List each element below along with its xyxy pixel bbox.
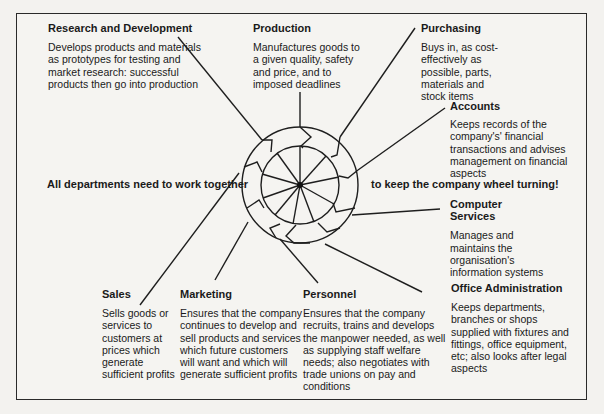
dept-accounts: Accounts Keeps records of the company's'…	[450, 100, 575, 179]
dept-title: Research and Development	[48, 22, 208, 34]
dept-title: Computer Services	[450, 198, 550, 222]
dept-description: Sells goods or services to customers at …	[102, 307, 180, 380]
dept-title: Sales	[102, 288, 180, 300]
dept-title: Accounts	[450, 100, 575, 112]
dept-computer-services: Computer Services Manages and maintains …	[450, 198, 550, 278]
dept-description: Keeps departments, branches or shops sup…	[451, 301, 576, 374]
dept-purchasing: Purchasing Buys in, as cost-effectively …	[421, 22, 503, 102]
slogan-left: All departments need to work together	[47, 178, 248, 190]
dept-description: Buys in, as cost-effectively as possible…	[421, 41, 503, 102]
dept-description: Keeps records of the company's' financia…	[450, 118, 575, 179]
dept-research-and-development: Research and Development Develops produc…	[48, 22, 208, 90]
dept-description: Ensures that the company continues to de…	[180, 307, 305, 380]
dept-description: Develops products and materials as proto…	[48, 41, 208, 90]
dept-title: Production	[253, 22, 368, 34]
dept-sales: Sales Sells goods or services to custome…	[102, 288, 180, 380]
slogan-right: to keep the company wheel turning!	[371, 178, 559, 190]
dept-title: Marketing	[180, 288, 305, 300]
dept-description: Ensures that the company recruits, train…	[303, 307, 448, 392]
dept-marketing: Marketing Ensures that the company conti…	[180, 288, 305, 380]
dept-description: Manufactures goods to a given quality, s…	[253, 41, 368, 90]
dept-title: Personnel	[303, 288, 448, 300]
dept-description: Manages and maintains the organisation's…	[450, 229, 550, 278]
dept-title: Office Administration	[451, 282, 576, 294]
dept-production: Production Manufactures goods to a given…	[253, 22, 368, 90]
dept-title: Purchasing	[421, 22, 503, 34]
dept-office-administration: Office Administration Keeps departments,…	[451, 282, 576, 374]
dept-personnel: Personnel Ensures that the company recru…	[303, 288, 448, 393]
